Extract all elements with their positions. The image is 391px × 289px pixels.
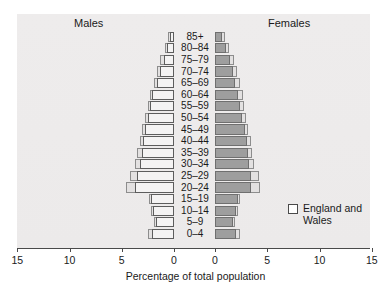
clipped-caption-sliver bbox=[0, 0, 391, 9]
male-bar bbox=[143, 136, 174, 146]
female-bar bbox=[215, 90, 238, 100]
female-bar bbox=[215, 159, 249, 169]
female-bar bbox=[215, 136, 247, 146]
axis-tick-label: 0 bbox=[171, 254, 177, 266]
male-bar bbox=[164, 55, 174, 65]
age-band-label: 35–39 bbox=[175, 148, 215, 158]
male-bar bbox=[156, 217, 174, 227]
males-header: Males bbox=[74, 17, 103, 29]
female-bar bbox=[215, 43, 226, 53]
axis-tick bbox=[372, 248, 373, 252]
female-bar bbox=[215, 55, 230, 65]
age-band-label: 85+ bbox=[175, 32, 215, 42]
x-axis-title: Percentage of total population bbox=[0, 270, 391, 282]
female-bar bbox=[215, 148, 248, 158]
pyramid-row: 80–84 bbox=[0, 43, 391, 55]
male-bar bbox=[167, 43, 174, 53]
male-bar bbox=[148, 113, 174, 123]
pyramid-row: 35–39 bbox=[0, 147, 391, 159]
age-band-label: 30–34 bbox=[175, 159, 215, 169]
axis-tick-label: 10 bbox=[314, 254, 326, 266]
age-band-label: 70–74 bbox=[175, 67, 215, 77]
pyramid-row: 70–74 bbox=[0, 66, 391, 78]
female-bar bbox=[215, 171, 251, 181]
female-bar bbox=[215, 124, 245, 134]
male-bar bbox=[152, 229, 174, 239]
male-bar bbox=[137, 171, 174, 181]
male-bar bbox=[157, 78, 174, 88]
pyramid-row: 75–79 bbox=[0, 54, 391, 66]
female-bar bbox=[215, 32, 222, 42]
age-band-label: 45–49 bbox=[175, 125, 215, 135]
pyramid-row: 40–44 bbox=[0, 135, 391, 147]
female-bar bbox=[215, 182, 251, 192]
age-band-label: 50–54 bbox=[175, 113, 215, 123]
age-band-label: 20–24 bbox=[175, 183, 215, 193]
pyramid-row: 60–64 bbox=[0, 89, 391, 101]
male-bar bbox=[140, 159, 174, 169]
female-bar bbox=[215, 101, 240, 111]
male-bar bbox=[135, 182, 174, 192]
axis-tick bbox=[174, 248, 175, 252]
male-bar bbox=[142, 148, 174, 158]
age-band-label: 0–4 bbox=[175, 229, 215, 239]
male-bar bbox=[170, 32, 174, 42]
pyramid-row: 20–24 bbox=[0, 182, 391, 194]
pyramid-row: 65–69 bbox=[0, 77, 391, 89]
age-band-label: 15–19 bbox=[175, 194, 215, 204]
legend-swatch-icon bbox=[288, 204, 298, 214]
age-band-label: 60–64 bbox=[175, 90, 215, 100]
female-bar bbox=[215, 206, 236, 216]
female-bar bbox=[215, 217, 233, 227]
female-bar bbox=[215, 229, 236, 239]
female-bar bbox=[215, 66, 233, 76]
male-bar bbox=[160, 66, 174, 76]
male-bar bbox=[150, 101, 174, 111]
age-band-label: 40–44 bbox=[175, 136, 215, 146]
female-bar bbox=[215, 113, 242, 123]
age-band-label: 55–59 bbox=[175, 101, 215, 111]
pyramid-row: 50–54 bbox=[0, 112, 391, 124]
pyramid-row: 25–29 bbox=[0, 170, 391, 182]
age-band-label: 75–79 bbox=[175, 55, 215, 65]
axis-tick-label: 0 bbox=[212, 254, 218, 266]
age-band-label: 25–29 bbox=[175, 171, 215, 181]
male-bar bbox=[151, 194, 174, 204]
axis-tick-label: 15 bbox=[366, 254, 378, 266]
axis-tick bbox=[215, 248, 216, 252]
female-bar bbox=[215, 78, 235, 88]
pyramid-row: 55–59 bbox=[0, 101, 391, 113]
axis-tick-label: 5 bbox=[119, 254, 125, 266]
pyramid-row: 0–4 bbox=[0, 228, 391, 240]
axis-tick-label: 10 bbox=[64, 254, 76, 266]
axis-tick-label: 5 bbox=[264, 254, 270, 266]
axis-tick bbox=[267, 248, 268, 252]
age-band-label: 65–69 bbox=[175, 78, 215, 88]
male-bar bbox=[153, 206, 174, 216]
pyramid-row: 85+ bbox=[0, 31, 391, 43]
male-bar bbox=[152, 90, 174, 100]
axis-tick bbox=[17, 248, 18, 252]
female-bar bbox=[215, 194, 238, 204]
pyramid-row: 45–49 bbox=[0, 124, 391, 136]
axis-tick bbox=[320, 248, 321, 252]
legend: England and Wales bbox=[288, 202, 375, 226]
male-bar bbox=[145, 124, 174, 134]
females-header: Females bbox=[268, 17, 310, 29]
legend-label: England and Wales bbox=[303, 202, 375, 226]
age-band-label: 80–84 bbox=[175, 43, 215, 53]
age-band-label: 10–14 bbox=[175, 206, 215, 216]
axis-tick bbox=[70, 248, 71, 252]
population-pyramid-chart: Males Females 85+80–8475–7970–7465–6960–… bbox=[0, 0, 391, 289]
age-band-label: 5–9 bbox=[175, 217, 215, 227]
axis-tick-label: 15 bbox=[11, 254, 23, 266]
axis-tick bbox=[122, 248, 123, 252]
pyramid-row: 30–34 bbox=[0, 159, 391, 171]
